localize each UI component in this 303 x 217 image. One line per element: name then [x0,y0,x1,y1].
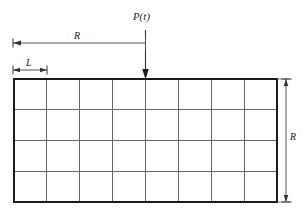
dimension-label-l: L [26,58,32,68]
dimension-r-vertical-top-arrowhead [284,79,289,86]
figure-container: P(t) R L R [0,0,303,217]
dimension-r-vertical-bottom-arrowhead [284,195,289,202]
dimension-l-left-arrowhead [13,68,20,72]
load-label-text: P(t) [133,11,150,22]
dimension-r-horizontal-left-arrowhead [13,41,21,46]
dimension-label-r-horizontal: R [74,31,80,41]
dimension-l-right-arrowhead [40,68,47,72]
dimension-label-r-vertical: R [290,132,296,142]
load-label: P(t) [133,12,150,23]
load-arrow-head [142,69,148,80]
diagram-canvas [0,0,303,217]
